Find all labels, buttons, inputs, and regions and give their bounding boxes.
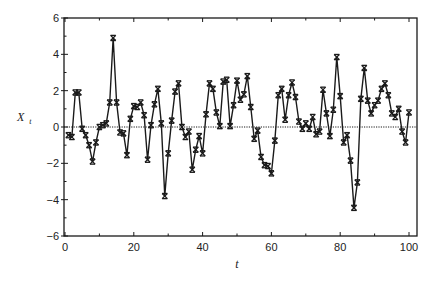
y-tick-label: 2 bbox=[53, 85, 59, 97]
y-axis-label: X t bbox=[16, 110, 32, 126]
data-point-marker bbox=[393, 114, 398, 119]
x-axis-label: t bbox=[235, 257, 239, 271]
y-axis-label-subscript: t bbox=[29, 117, 32, 126]
x-tick-label: 60 bbox=[265, 241, 277, 253]
x-tick-label: 0 bbox=[62, 241, 68, 253]
y-tick-label: 4 bbox=[53, 48, 59, 60]
y-tick-label: −2 bbox=[46, 157, 59, 169]
y-tick-label: −6 bbox=[46, 230, 59, 242]
x-tick-label: 40 bbox=[196, 241, 208, 253]
y-tick-label: 0 bbox=[53, 121, 59, 133]
y-tick-label: 6 bbox=[53, 12, 59, 24]
data-point-marker bbox=[303, 121, 308, 126]
x-tick-label: 20 bbox=[128, 241, 140, 253]
time-series-chart: 020406080100−6−4−20246 t X t bbox=[0, 0, 432, 282]
y-tick-label: −4 bbox=[46, 194, 59, 206]
tick-labels: 020406080100−6−4−20246 bbox=[46, 12, 418, 253]
y-axis-label-main: X bbox=[16, 110, 25, 124]
x-tick-label: 80 bbox=[334, 241, 346, 253]
x-tick-label: 100 bbox=[400, 241, 418, 253]
